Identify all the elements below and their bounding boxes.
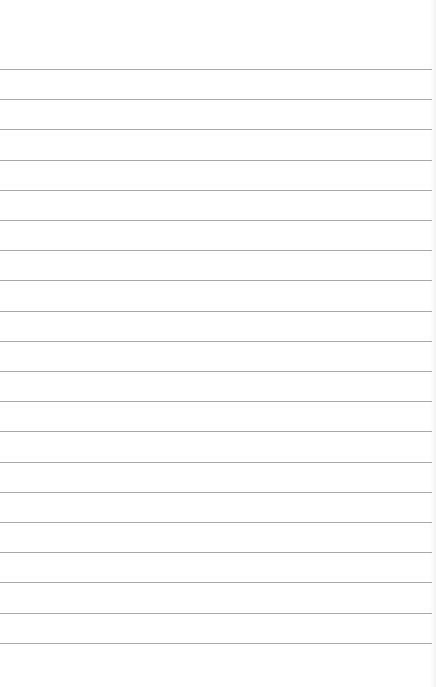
ruled-line xyxy=(0,250,432,251)
ruled-line xyxy=(0,492,432,493)
ruled-line xyxy=(0,160,432,161)
ruled-line xyxy=(0,341,432,342)
page-edge-shadow xyxy=(430,0,436,687)
ruled-line xyxy=(0,552,432,553)
ruled-line xyxy=(0,69,432,70)
ruled-line xyxy=(0,431,432,432)
ruled-line xyxy=(0,462,432,463)
ruled-line xyxy=(0,371,432,372)
ruled-line xyxy=(0,99,432,100)
ruled-line xyxy=(0,190,432,191)
ruled-line xyxy=(0,311,432,312)
ruled-line xyxy=(0,280,432,281)
ruled-line xyxy=(0,643,432,644)
ruled-line xyxy=(0,220,432,221)
ruled-line xyxy=(0,522,432,523)
lined-paper-sheet xyxy=(0,0,436,687)
ruled-line xyxy=(0,613,432,614)
ruled-line xyxy=(0,582,432,583)
ruled-line xyxy=(0,401,432,402)
ruled-line xyxy=(0,129,432,130)
